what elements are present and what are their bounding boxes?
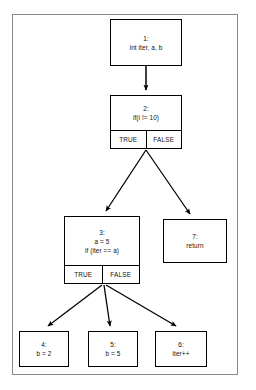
node-2[interactable]: 2: if(i != 10) TRUE FALSE bbox=[110, 95, 182, 149]
node-3-branch-row: TRUE FALSE bbox=[65, 265, 139, 283]
node-6-line-1: iter++ bbox=[173, 349, 190, 358]
edge-3-to-6 bbox=[106, 285, 176, 326]
node-7-body: 7: return bbox=[164, 220, 226, 262]
node-3-false-branch[interactable]: FALSE bbox=[102, 266, 140, 283]
node-5-body: 5: b = 5 bbox=[89, 332, 137, 366]
node-1-body: 1: int iter, a, b bbox=[111, 20, 181, 65]
node-3-line-1: a = 5 bbox=[95, 237, 110, 246]
node-1-line-0: 1: bbox=[143, 34, 149, 43]
node-4-line-0: 4: bbox=[41, 340, 47, 349]
node-2-true-branch[interactable]: TRUE bbox=[111, 131, 146, 148]
node-5-line-1: b = 5 bbox=[106, 349, 121, 358]
node-3-true-branch[interactable]: TRUE bbox=[65, 266, 102, 283]
node-7-line-0: 7: bbox=[192, 232, 198, 241]
edge-2-to-3 bbox=[106, 150, 146, 211]
node-2-line-0: 2: bbox=[143, 104, 149, 113]
edge-2-to-7 bbox=[146, 150, 190, 214]
node-4-line-1: b = 2 bbox=[37, 349, 52, 358]
node-5-line-0: 5: bbox=[110, 340, 116, 349]
edge-3-to-4 bbox=[48, 285, 102, 326]
node-2-false-branch[interactable]: FALSE bbox=[146, 131, 182, 148]
node-3[interactable]: 3: a = 5 if (iter == a) TRUE FALSE bbox=[64, 216, 140, 284]
node-6-line-0: 6: bbox=[178, 340, 184, 349]
node-4[interactable]: 4: b = 2 bbox=[19, 331, 69, 367]
node-1[interactable]: 1: int iter, a, b bbox=[110, 19, 182, 66]
flowchart-diagram: 1: int iter, a, b 2: if(i != 10) TRUE FA… bbox=[0, 0, 256, 390]
edge-3-to-5 bbox=[104, 285, 110, 326]
node-1-line-1: int iter, a, b bbox=[130, 43, 163, 52]
node-2-line-1: if(i != 10) bbox=[133, 113, 159, 122]
node-4-body: 4: b = 2 bbox=[20, 332, 68, 366]
node-3-body: 3: a = 5 if (iter == a) bbox=[65, 217, 139, 265]
node-3-line-2: if (iter == a) bbox=[85, 246, 119, 255]
node-6-body: 6: iter++ bbox=[156, 332, 206, 366]
node-3-line-0: 3: bbox=[99, 228, 105, 237]
node-2-body: 2: if(i != 10) bbox=[111, 96, 181, 130]
node-2-branch-row: TRUE FALSE bbox=[111, 130, 181, 148]
node-7-line-1: return bbox=[186, 241, 203, 250]
node-6[interactable]: 6: iter++ bbox=[155, 331, 207, 367]
node-7[interactable]: 7: return bbox=[163, 219, 227, 263]
node-5[interactable]: 5: b = 5 bbox=[88, 331, 138, 367]
